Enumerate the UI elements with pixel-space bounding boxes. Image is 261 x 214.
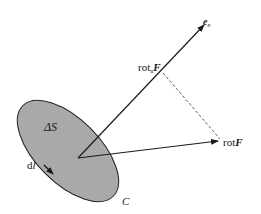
boundary-label: C <box>122 195 130 207</box>
line-element-label: dl <box>27 159 36 171</box>
surface-ellipse <box>0 83 136 214</box>
surface-label: ΔS <box>43 120 57 134</box>
normal-vector-label: en <box>203 16 210 28</box>
projection-label: rotnF <box>138 61 161 74</box>
normal-vector-arrow <box>78 25 204 158</box>
curl-vector-label: rotF <box>223 136 243 148</box>
projection-dashed-line <box>163 73 220 139</box>
curl-diagram: en rotnF rotF ΔS dl C <box>0 0 261 214</box>
